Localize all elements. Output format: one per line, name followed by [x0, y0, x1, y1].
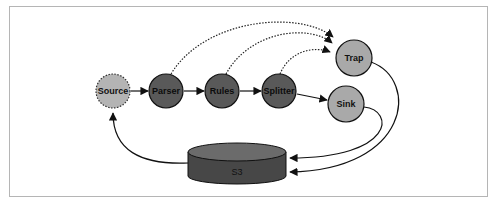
node-label-rules: Rules	[210, 86, 235, 96]
edge-parser-trap	[171, 22, 333, 74]
edge-rules-trap	[226, 33, 332, 74]
edge-splitter-sink	[297, 94, 327, 100]
node-source: Source	[96, 74, 130, 108]
node-splitter: Splitter	[262, 74, 296, 108]
edge-splitter-trap	[280, 50, 330, 74]
node-label-trap: Trap	[344, 53, 364, 63]
node-rules: Rules	[205, 74, 239, 108]
pipeline-diagram: S3 Source Parser Rules Splitter Trap Sin…	[0, 0, 498, 207]
node-trap: Trap	[336, 40, 372, 76]
node-sink: Sink	[328, 86, 364, 122]
node-label-sink: Sink	[336, 99, 356, 109]
node-parser: Parser	[149, 74, 183, 108]
edge-s3-source	[113, 113, 188, 163]
s3-storage-node: S3	[188, 143, 286, 184]
node-label-splitter: Splitter	[263, 86, 295, 96]
node-label-source: Source	[98, 86, 129, 96]
s3-label: S3	[231, 167, 242, 177]
node-label-parser: Parser	[152, 86, 181, 96]
